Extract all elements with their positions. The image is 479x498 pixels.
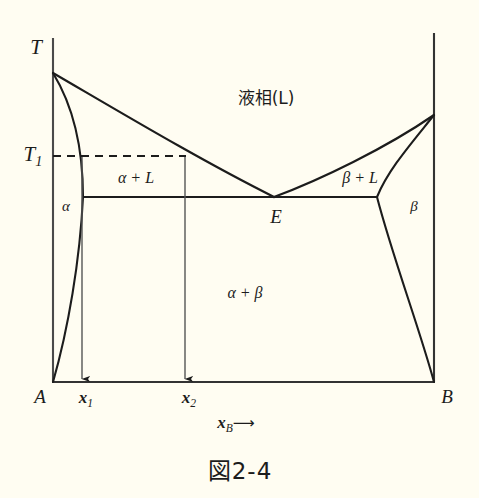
beta-solvus-curve xyxy=(377,197,434,382)
xb-subscript: B xyxy=(226,422,233,435)
alpha-solidus-curve xyxy=(53,73,83,197)
t1-subscript: 1 xyxy=(35,153,42,169)
composition-x2-label: x2 xyxy=(182,389,196,410)
component-b-label: B xyxy=(441,387,453,406)
region-label-alpha-plus-beta: α + β xyxy=(227,285,262,301)
x2-base: x xyxy=(182,388,191,407)
alpha-solvus-curve xyxy=(53,197,83,382)
t1-base: T xyxy=(24,142,36,166)
region-label-liquid: 液相(L) xyxy=(238,90,295,107)
x-axis-label: xB⟶ xyxy=(217,414,255,435)
y-axis-label: T xyxy=(30,37,42,58)
figure-caption: 図2-4 xyxy=(208,460,273,483)
beta-solidus-curve xyxy=(377,115,434,197)
region-label-alpha: α xyxy=(62,199,70,214)
x1-subscript: 1 xyxy=(87,397,93,410)
x2-subscript: 2 xyxy=(190,397,196,410)
xb-base: x xyxy=(217,413,226,432)
component-a-label: A xyxy=(34,387,46,406)
region-label-beta-plus-liquid: β + L xyxy=(342,170,378,186)
x-axis-arrow-icon: ⟶ xyxy=(233,414,255,432)
eutectic-point-label: E xyxy=(270,207,282,226)
composition-x1-label: x1 xyxy=(79,389,93,410)
x1-base: x xyxy=(79,388,88,407)
region-label-beta: β xyxy=(410,199,417,214)
figure-page: T T1 液相(L) α + L β + L α β α + β E A B x… xyxy=(0,0,479,498)
region-label-alpha-plus-liquid: α + L xyxy=(118,170,154,186)
temperature-t1-label: T1 xyxy=(24,144,43,168)
